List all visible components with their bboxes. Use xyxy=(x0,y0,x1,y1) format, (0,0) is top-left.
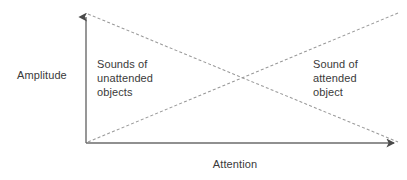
attention-amplitude-diagram: Amplitude Attention Sounds of unattended… xyxy=(0,0,407,180)
x-axis-label: Attention xyxy=(185,157,285,171)
y-axis-label: Amplitude xyxy=(17,68,89,82)
attended-object-label: Sound of attended object xyxy=(313,57,399,100)
unattended-objects-label: Sounds of unattended objects xyxy=(97,57,183,100)
